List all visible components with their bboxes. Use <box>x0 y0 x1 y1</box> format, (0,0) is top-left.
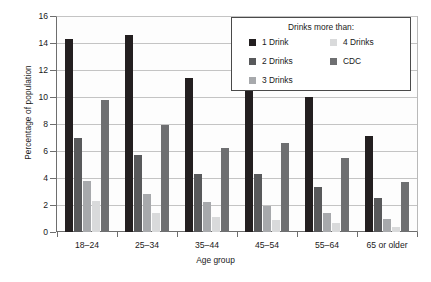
y-axis-tick <box>50 97 56 98</box>
bar-group <box>117 16 177 232</box>
bar <box>143 194 151 232</box>
y-axis-tick <box>50 151 56 152</box>
y-axis-label: 2 <box>14 201 48 210</box>
legend-swatch <box>249 77 256 84</box>
bar <box>245 77 253 232</box>
x-axis-label: 35–44 <box>177 240 237 250</box>
bar <box>272 220 280 232</box>
bar-group <box>57 16 117 232</box>
bar <box>92 201 100 232</box>
bar <box>125 35 133 232</box>
legend-swatch <box>330 39 337 46</box>
y-axis-tick <box>50 16 56 17</box>
legend-swatch <box>249 39 256 46</box>
bar <box>221 148 229 232</box>
bar <box>212 217 220 232</box>
bar <box>314 187 322 232</box>
bar <box>203 202 211 232</box>
y-axis-label: 4 <box>14 174 48 183</box>
bar <box>185 78 193 232</box>
legend-label: 4 Drinks <box>343 37 374 48</box>
y-axis-label: 0 <box>14 228 48 237</box>
legend-swatch <box>330 58 337 65</box>
legend-swatch <box>249 58 256 65</box>
bar <box>74 138 82 233</box>
bar-chart: Percentage of population 0246810121416 1… <box>0 0 431 282</box>
x-axis-tick <box>357 232 358 237</box>
x-axis-tick <box>417 232 418 237</box>
bar <box>161 125 169 232</box>
y-axis-tick <box>50 178 56 179</box>
bar <box>365 136 373 232</box>
y-axis-label: 10 <box>14 93 48 102</box>
bar <box>374 198 382 232</box>
x-axis-label: 18–24 <box>57 240 117 250</box>
y-axis-label: 6 <box>14 147 48 156</box>
bar <box>263 206 271 232</box>
y-axis-tick <box>50 70 56 71</box>
bar <box>332 223 340 232</box>
bar <box>341 158 349 232</box>
bar <box>281 143 289 232</box>
legend-title: Drinks more than: <box>232 22 410 32</box>
y-axis-label: 8 <box>14 120 48 129</box>
y-axis-tick <box>50 43 56 44</box>
x-axis-title: Age group <box>0 255 431 265</box>
bar <box>101 100 109 232</box>
legend-label: 3 Drinks <box>262 75 293 86</box>
y-axis-tick <box>50 205 56 206</box>
x-axis-tick <box>117 232 118 237</box>
bar <box>83 181 91 232</box>
bar <box>323 213 331 232</box>
y-axis-tick <box>50 232 56 233</box>
legend-label: 2 Drinks <box>262 56 293 67</box>
legend-label: 1 Drink <box>262 37 289 48</box>
bar <box>254 174 262 232</box>
y-axis-label: 14 <box>14 39 48 48</box>
y-axis-label: 16 <box>14 12 48 21</box>
bar <box>152 213 160 232</box>
bar <box>401 182 409 232</box>
x-axis-tick <box>297 232 298 237</box>
x-axis-label: 65 or older <box>357 240 417 250</box>
bar <box>65 39 73 232</box>
y-axis-label: 12 <box>14 66 48 75</box>
legend-label: CDC <box>343 56 361 67</box>
x-axis-label: 45–54 <box>237 240 297 250</box>
chart-legend: Drinks more than: 1 Drink2 Drinks3 Drink… <box>231 17 411 91</box>
x-axis-label: 25–34 <box>117 240 177 250</box>
x-axis-tick <box>57 232 58 237</box>
bar <box>383 219 391 233</box>
bar <box>392 227 400 232</box>
y-axis-title: Percentage of population <box>24 33 33 193</box>
bar-group <box>177 16 237 232</box>
x-axis-label: 55–64 <box>297 240 357 250</box>
x-axis-tick <box>237 232 238 237</box>
x-axis-tick <box>177 232 178 237</box>
bar <box>305 97 313 232</box>
y-axis-tick <box>50 124 56 125</box>
bar <box>134 155 142 232</box>
bar <box>194 174 202 232</box>
